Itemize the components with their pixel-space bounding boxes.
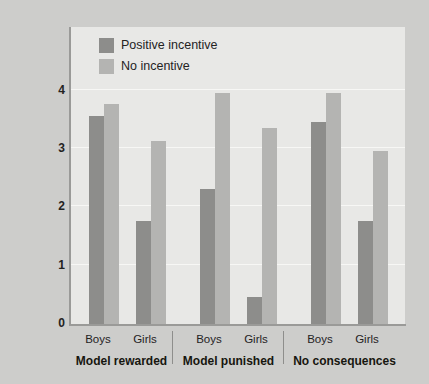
y-axis-line <box>69 27 71 326</box>
y-axis-title-wrapper: Mean number of different imitative respo… <box>0 0 16 40</box>
y-tick-label-3: 3 <box>41 142 65 154</box>
legend-item-positive-incentive: Positive incentive <box>99 36 218 55</box>
chart-screenshot: Positive incentive No incentive 4 3 2 1 … <box>0 0 429 384</box>
bar-model-rewarded-girls-no-incentive <box>151 141 166 326</box>
legend-label-positive-incentive: Positive incentive <box>121 39 218 52</box>
bar-model-punished-girls-positive-incentive <box>247 297 262 326</box>
bar-model-punished-boys-positive-incentive <box>200 189 215 326</box>
y-tick-label-2: 2 <box>41 200 65 212</box>
x-sub-label-model-punished-girls: Girls <box>236 334 276 346</box>
gridline-3 <box>70 147 405 148</box>
gridline-4 <box>70 89 405 90</box>
y-tick-label-4: 4 <box>41 84 65 96</box>
bar-model-rewarded-boys-positive-incentive <box>89 116 104 326</box>
x-group-divider-1 <box>172 331 173 364</box>
x-group-label-model-rewarded: Model rewarded <box>73 355 170 367</box>
y-axis-title: Mean number of different imitative respo… <box>0 0 13 40</box>
x-axis-line <box>69 324 406 326</box>
chart-legend: Positive incentive No incentive <box>99 36 218 78</box>
x-sub-label-no-consequences-girls: Girls <box>347 334 387 346</box>
x-group-divider-2 <box>283 331 284 364</box>
bar-no-consequences-girls-no-incentive <box>373 151 388 326</box>
bar-no-consequences-boys-positive-incentive <box>311 122 326 326</box>
x-sub-label-no-consequences-boys: Boys <box>300 334 340 346</box>
legend-label-no-incentive: No incentive <box>121 60 190 73</box>
plot-area: Positive incentive No incentive <box>70 27 405 326</box>
y-tick-label-1: 1 <box>41 259 65 271</box>
gridline-1 <box>70 264 405 265</box>
x-sub-label-model-rewarded-girls: Girls <box>125 334 165 346</box>
bar-model-punished-boys-no-incentive <box>215 93 230 326</box>
y-tick-label-0: 0 <box>41 317 65 329</box>
legend-swatch-icon-positive-incentive <box>99 38 114 53</box>
x-group-label-model-punished: Model punished <box>180 355 277 367</box>
bar-model-rewarded-girls-positive-incentive <box>136 221 151 326</box>
bar-no-consequences-boys-no-incentive <box>326 93 341 326</box>
bar-model-rewarded-boys-no-incentive <box>104 104 119 326</box>
bar-model-punished-girls-no-incentive <box>262 128 277 326</box>
legend-item-no-incentive: No incentive <box>99 57 218 76</box>
legend-swatch-icon-no-incentive <box>99 59 114 74</box>
x-sub-label-model-punished-boys: Boys <box>189 334 229 346</box>
gridline-2 <box>70 205 405 206</box>
x-group-label-no-consequences: No consequences <box>292 355 397 367</box>
bar-no-consequences-girls-positive-incentive <box>358 221 373 326</box>
x-sub-label-model-rewarded-boys: Boys <box>78 334 118 346</box>
